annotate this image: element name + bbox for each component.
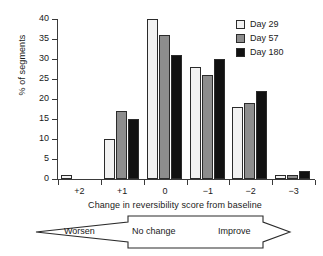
y-tick-label: 20 bbox=[19, 94, 49, 103]
y-tick-label: 15 bbox=[19, 114, 49, 123]
y-tick bbox=[52, 19, 57, 20]
x-tick bbox=[101, 180, 102, 185]
x-tick-label: −2 bbox=[231, 186, 271, 196]
legend-swatch-icon bbox=[236, 48, 245, 57]
bar bbox=[171, 55, 182, 179]
bar bbox=[299, 171, 310, 179]
bar-group bbox=[61, 19, 104, 179]
bar-group bbox=[147, 19, 190, 179]
y-tick-label: 40 bbox=[19, 14, 49, 23]
legend-item: Day 180 bbox=[236, 46, 284, 59]
x-tick bbox=[315, 180, 316, 185]
chart-figure: % of segments 0510152025303540 +2+10−1−2… bbox=[0, 0, 323, 256]
x-tick-label: −1 bbox=[188, 186, 228, 196]
y-axis-title: % of segments bbox=[17, 10, 27, 120]
bar bbox=[202, 75, 213, 179]
x-tick-label: 0 bbox=[145, 186, 185, 196]
band-label-no-change: No change bbox=[132, 226, 176, 236]
x-tick-label: +2 bbox=[59, 186, 99, 196]
y-tick-label: 0 bbox=[19, 174, 49, 183]
bar bbox=[116, 111, 127, 179]
x-tick bbox=[187, 180, 188, 185]
y-tick bbox=[52, 39, 57, 40]
legend-item: Day 29 bbox=[236, 18, 284, 31]
y-tick bbox=[52, 99, 57, 100]
x-axis-title: Change in reversibility score from basel… bbox=[30, 200, 320, 210]
bar bbox=[147, 19, 158, 179]
bar bbox=[104, 139, 115, 179]
legend-item: Day 57 bbox=[236, 32, 284, 45]
direction-arrow-band: Worsen No change Improve bbox=[28, 215, 298, 249]
bar bbox=[159, 35, 170, 179]
x-tick bbox=[58, 180, 59, 185]
x-tick-label: +1 bbox=[102, 186, 142, 196]
bar bbox=[128, 119, 139, 179]
x-tick bbox=[229, 180, 230, 185]
y-tick-label: 5 bbox=[19, 154, 49, 163]
chart-legend: Day 29Day 57Day 180 bbox=[236, 18, 284, 60]
bar bbox=[244, 103, 255, 179]
bar-group bbox=[104, 19, 147, 179]
x-tick-label: −3 bbox=[274, 186, 314, 196]
band-label-improve: Improve bbox=[218, 226, 251, 236]
x-tick bbox=[144, 180, 145, 185]
x-tick bbox=[272, 180, 273, 185]
legend-swatch-icon bbox=[236, 20, 245, 29]
band-label-worsen: Worsen bbox=[64, 226, 95, 236]
bar bbox=[232, 107, 243, 179]
y-tick bbox=[52, 159, 57, 160]
y-tick-label: 10 bbox=[19, 134, 49, 143]
legend-label: Day 29 bbox=[250, 20, 279, 29]
bar-group bbox=[190, 19, 233, 179]
y-tick-label: 25 bbox=[19, 74, 49, 83]
y-tick-label: 35 bbox=[19, 34, 49, 43]
y-tick bbox=[52, 59, 57, 60]
bar bbox=[190, 67, 201, 179]
y-tick bbox=[52, 79, 57, 80]
legend-label: Day 180 bbox=[250, 48, 284, 57]
legend-swatch-icon bbox=[236, 34, 245, 43]
bar bbox=[214, 59, 225, 179]
bar bbox=[256, 91, 267, 179]
y-tick bbox=[52, 139, 57, 140]
y-tick bbox=[52, 119, 57, 120]
legend-label: Day 57 bbox=[250, 34, 279, 43]
y-tick-label: 30 bbox=[19, 54, 49, 63]
